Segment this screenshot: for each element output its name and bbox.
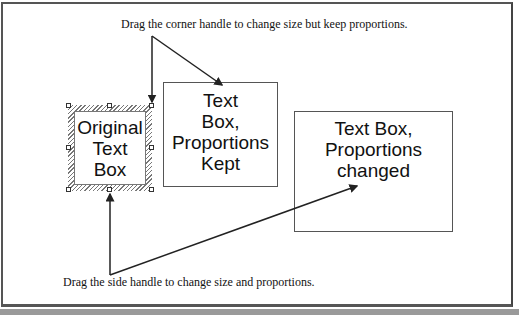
resize-handle-bottom-left[interactable] [66, 187, 71, 192]
resize-handle-bottom-right[interactable] [149, 187, 154, 192]
resize-handle-bottom-center[interactable] [107, 187, 112, 192]
resize-handle-middle-right[interactable] [149, 145, 154, 150]
text-line: Proportions [295, 139, 452, 160]
text-line: Text [164, 90, 277, 111]
text-line: Kept [164, 153, 277, 174]
text-line: Text Box, [295, 118, 452, 139]
corner-handle-caption: Drag the corner handle to change size bu… [121, 17, 408, 32]
text-line: changed [295, 160, 452, 181]
text-line: Text [93, 138, 128, 159]
text-line: Proportions [164, 132, 277, 153]
resize-handle-top-center[interactable] [107, 103, 112, 108]
text-line: Box [94, 159, 127, 180]
text-box-proportions-kept[interactable]: Text Box, Proportions Kept [163, 82, 278, 187]
resize-handle-top-left[interactable] [66, 103, 71, 108]
side-handle-caption: Drag the side handle to change size and … [63, 275, 315, 290]
text-box-proportions-changed[interactable]: Text Box, Proportions changed [294, 111, 453, 232]
text-line: Box, [164, 111, 277, 132]
original-text-box[interactable]: Original Text Box [74, 111, 146, 185]
resize-handle-middle-left[interactable] [66, 145, 71, 150]
bottom-band [0, 309, 519, 315]
resize-handle-top-right[interactable] [149, 103, 154, 108]
text-line: Original [77, 117, 142, 138]
